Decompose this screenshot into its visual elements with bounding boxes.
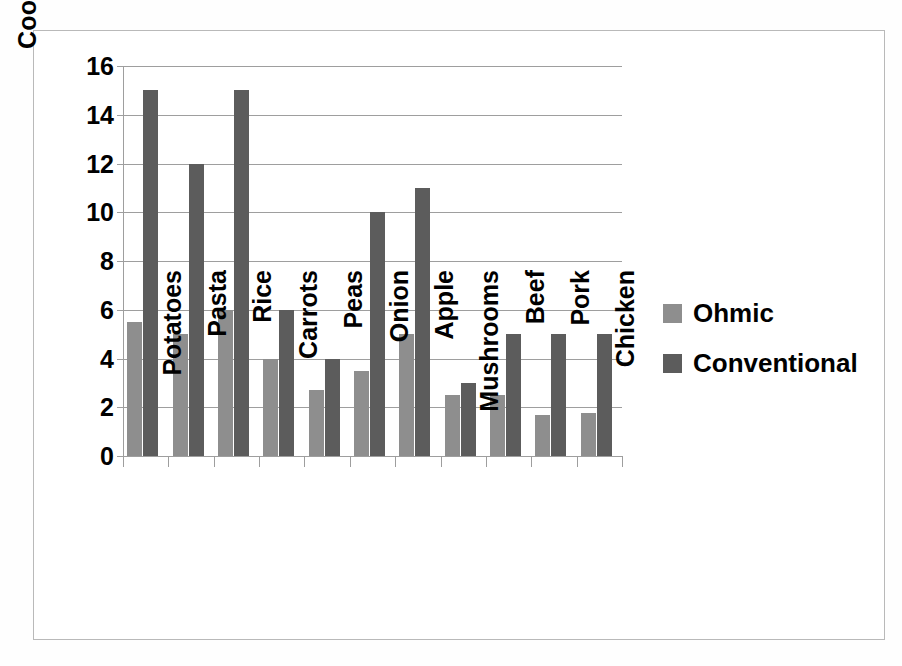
x-axis-category-label: Apple [431, 270, 457, 470]
legend-item-ohmic: Ohmic [663, 288, 873, 338]
y-axis-tick [117, 115, 124, 116]
bar-conventional-peas [325, 359, 340, 457]
x-axis-tick [486, 456, 487, 467]
x-axis-category-label: Peas [340, 270, 366, 470]
y-axis-tick-label: 8 [68, 249, 114, 274]
bar-conventional-apple [415, 188, 430, 456]
legend-item-conventional: Conventional [663, 338, 873, 388]
legend-swatch-icon [663, 354, 682, 373]
y-axis-tick [117, 310, 124, 311]
bar-conventional-carrots [279, 310, 294, 456]
x-axis-category-label: Mushrooms [476, 270, 502, 470]
x-axis-tick [531, 456, 532, 467]
x-axis-tick [304, 456, 305, 467]
x-axis-category-label: Rice [249, 270, 275, 470]
y-axis-tick-label: 6 [68, 298, 114, 323]
bar-conventional-rice [234, 90, 249, 456]
x-axis-category-label: Beef [522, 270, 548, 470]
x-axis-tick [622, 456, 623, 467]
x-axis-line [123, 456, 623, 457]
x-axis-tick [441, 456, 442, 467]
y-axis-tick-label: 10 [68, 200, 114, 225]
gridline [123, 66, 622, 67]
y-axis-tick-label: 16 [68, 54, 114, 79]
x-axis-category-label: Pork [567, 270, 593, 470]
x-axis-tick [214, 456, 215, 467]
y-axis-tick [117, 359, 124, 360]
legend-label: Ohmic [693, 298, 774, 329]
legend-label: Conventional [693, 348, 858, 379]
bar-conventional-pasta [189, 164, 204, 457]
x-axis-tick [168, 456, 169, 467]
y-axis-tick-labels: 0246810121416 [62, 66, 114, 457]
chart-legend: OhmicConventional [663, 288, 873, 388]
y-axis-tick [117, 212, 124, 213]
x-axis-category-label: Pasta [204, 270, 230, 470]
x-axis-category-label: Chicken [612, 270, 638, 470]
y-axis-tick-label: 0 [68, 444, 114, 469]
bar-conventional-pork [551, 334, 566, 456]
x-axis-tick [350, 456, 351, 467]
bar-conventional-potatoes [143, 90, 158, 456]
y-axis-tick-label: 12 [68, 152, 114, 177]
bar-conventional-chicken [597, 334, 612, 456]
x-axis-tick [577, 456, 578, 467]
x-axis-tick [395, 456, 396, 467]
y-axis-tick-label: 4 [68, 347, 114, 372]
bar-conventional-mushrooms [461, 383, 476, 456]
y-axis-tick-label: 14 [68, 103, 114, 128]
y-axis-tick [117, 407, 124, 408]
x-axis-tick [259, 456, 260, 467]
y-axis-tick-label: 2 [68, 395, 114, 420]
y-axis-title: Cooking time (min) [10, 0, 44, 114]
x-axis-category-label: Carrots [295, 270, 321, 470]
x-axis-category-label: Onion [386, 270, 412, 470]
chart-figure: Cooking time (min) 0246810121416 OhmicCo… [0, 0, 902, 666]
legend-swatch-icon [663, 304, 682, 323]
bar-ohmic-potatoes [127, 322, 142, 456]
y-axis-tick [117, 164, 124, 165]
bar-conventional-onion [370, 212, 385, 456]
y-axis-tick [117, 261, 124, 262]
x-axis-tick [123, 456, 124, 467]
bar-conventional-beef [506, 334, 521, 456]
gridline [123, 115, 622, 116]
y-axis-tick [117, 66, 124, 67]
x-axis-category-label: Potatoes [159, 270, 185, 470]
